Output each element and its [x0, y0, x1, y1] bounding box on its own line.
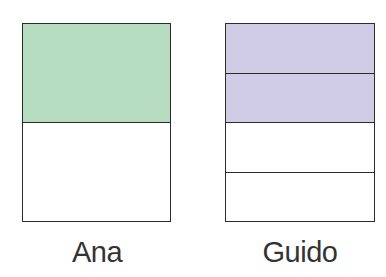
shaded-segment — [23, 24, 170, 122]
shaded-segment — [226, 73, 374, 123]
empty-segment — [226, 172, 374, 222]
ana-fraction-bar — [22, 23, 171, 222]
guido-fraction-bar — [225, 23, 375, 222]
empty-segment — [23, 122, 170, 221]
guido-label: Guido — [225, 236, 375, 269]
ana-label: Ana — [22, 236, 172, 269]
empty-segment — [226, 122, 374, 172]
shaded-segment — [226, 24, 374, 73]
